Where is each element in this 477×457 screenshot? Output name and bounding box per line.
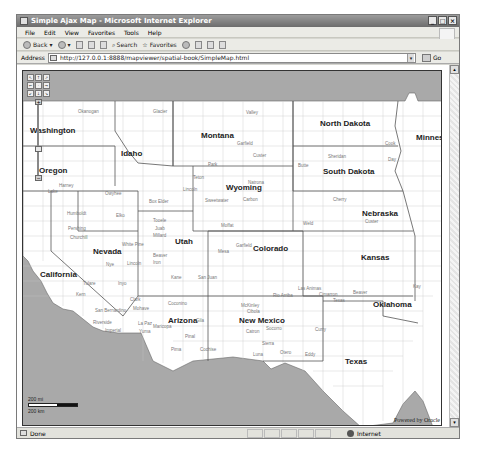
county-label: Moffat [221, 223, 233, 228]
home-icon[interactable] [100, 41, 107, 49]
county-label: Socorro [266, 326, 282, 331]
scroll-down-button[interactable]: ▾ [450, 418, 459, 427]
print-icon[interactable] [207, 41, 214, 49]
state-label-texas: Texas [345, 357, 367, 366]
county-label: Weld [303, 221, 313, 226]
scale-miles-label: 200 mi [28, 396, 78, 402]
forward-dropdown-icon[interactable]: ▾ [68, 39, 71, 51]
go-arrow-icon [422, 54, 431, 62]
county-label: Lake [48, 189, 58, 194]
county-label: Texas [333, 298, 345, 303]
menu-edit[interactable]: Edit [44, 27, 56, 37]
status-text: Done [30, 428, 46, 439]
zoom-track[interactable] [37, 105, 39, 175]
menu-view[interactable]: View [65, 27, 79, 37]
forward-button[interactable]: ▾ [58, 39, 71, 51]
county-label: La Paz [138, 321, 152, 326]
pan-northeast-button[interactable]: ↗ [43, 74, 50, 81]
scroll-up-button[interactable]: ▴ [450, 65, 459, 74]
county-label: Kern [76, 292, 86, 297]
mail-icon[interactable] [195, 41, 202, 49]
county-label: Custer [253, 153, 266, 158]
county-label: Tooele [153, 218, 166, 223]
county-label: Elko [116, 213, 125, 218]
map-canvas [23, 71, 442, 426]
pan-north-button[interactable]: ↑ [35, 74, 42, 81]
stop-icon[interactable] [76, 41, 83, 49]
address-input[interactable]: http://127.0.0.1:8888/mapviewer/spatial-… [48, 53, 416, 63]
county-label: Nye [106, 262, 114, 267]
window-title: Simple Ajax Map - Microsoft Internet Exp… [31, 17, 212, 25]
page-status-icon [20, 430, 27, 436]
close-button[interactable]: × [448, 16, 457, 25]
county-label: Eddy [305, 352, 315, 357]
menu-favorites[interactable]: Favorites [88, 27, 115, 37]
map-view[interactable]: Washington Oregon Idaho Montana North Da… [22, 70, 442, 426]
minimize-button[interactable]: _ [428, 16, 437, 25]
address-bar: Address http://127.0.0.1:8888/mapviewer/… [17, 52, 459, 64]
search-button[interactable]: ⌕ Search [112, 39, 138, 51]
pan-center-button[interactable]: · [35, 82, 42, 89]
county-label: Cibola [247, 309, 260, 314]
county-label: Humboldt [67, 211, 86, 216]
history-icon[interactable] [182, 41, 190, 49]
zoom-slider[interactable]: + − [35, 99, 41, 179]
star-icon: ☆ [142, 39, 147, 51]
address-dropdown-icon[interactable]: ▾ [407, 54, 414, 62]
county-label: Sheridan [328, 154, 346, 159]
county-label: Millard [153, 233, 166, 238]
county-label: Pershing [68, 226, 86, 231]
menu-file[interactable]: File [25, 27, 35, 37]
state-label-new-mexico: New Mexico [239, 316, 285, 325]
pan-southeast-button[interactable]: ↘ [43, 90, 50, 97]
county-label: Butte [298, 163, 309, 168]
county-label: Coconino [168, 301, 187, 306]
scale-bar-graphic [28, 403, 78, 407]
pan-southwest-button[interactable]: ↙ [27, 90, 34, 97]
county-label: Sweetwater [205, 198, 229, 203]
county-label: Cook [385, 141, 396, 146]
state-label-idaho: Idaho [121, 149, 142, 158]
favorites-button[interactable]: ☆ Favorites [142, 39, 177, 51]
county-label: Lincoln [127, 261, 141, 266]
edit-icon[interactable] [219, 41, 226, 49]
pan-south-button[interactable]: ↓ [35, 90, 42, 97]
back-arrow-icon [23, 41, 31, 49]
county-label: Carbon [243, 197, 258, 202]
title-bar: Simple Ajax Map - Microsoft Internet Exp… [17, 15, 459, 27]
forward-arrow-icon [58, 41, 66, 49]
county-label: Mohave [133, 306, 149, 311]
county-label: McKinley [241, 303, 259, 308]
county-label: Inyo [118, 281, 127, 286]
vertical-scrollbar[interactable]: ▴ ▾ [449, 65, 459, 427]
county-label: Yuma [139, 329, 151, 334]
browser-window: Simple Ajax Map - Microsoft Internet Exp… [16, 14, 460, 439]
state-label-arizona: Arizona [168, 316, 197, 325]
county-label: Pinal [185, 334, 195, 339]
state-label-oklahoma: Oklahoma [373, 300, 412, 309]
status-panes [247, 429, 331, 438]
attribution: Powered by Oracle [394, 417, 440, 423]
pan-northwest-button[interactable]: ↖ [27, 74, 34, 81]
county-label: San Bernardino [95, 308, 126, 313]
back-dropdown-icon[interactable]: ▾ [50, 39, 53, 51]
pan-east-button[interactable]: → [43, 82, 50, 89]
county-label: Pima [171, 347, 181, 352]
county-label: Beaver [353, 290, 367, 295]
menu-bar: File Edit View Favorites Tools Help [17, 27, 459, 38]
menu-tools[interactable]: Tools [124, 27, 139, 37]
pan-west-button[interactable]: ← [27, 82, 34, 89]
zoom-in-button[interactable]: + [35, 99, 42, 105]
menu-help[interactable]: Help [148, 27, 162, 37]
go-button[interactable]: Go [422, 52, 441, 64]
refresh-icon[interactable] [88, 41, 95, 49]
back-button[interactable]: Back ▾ [23, 39, 53, 51]
county-label: Maricopa [153, 324, 172, 329]
zoom-out-button[interactable]: − [35, 175, 42, 181]
state-label-nebraska: Nebraska [362, 209, 398, 218]
county-label: Valley [246, 110, 258, 115]
zoom-thumb[interactable] [35, 146, 42, 152]
county-label: Day [388, 157, 396, 162]
maximize-button[interactable]: □ [438, 16, 447, 25]
county-label: Luna [253, 352, 263, 357]
